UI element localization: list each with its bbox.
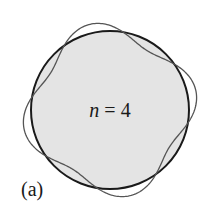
mode-equals: = [99, 99, 120, 121]
mode-value: 4 [121, 99, 131, 121]
mode-variable: n [89, 99, 99, 121]
panel-label: (a) [21, 178, 43, 201]
mode-number-label: n = 4 [83, 99, 137, 122]
